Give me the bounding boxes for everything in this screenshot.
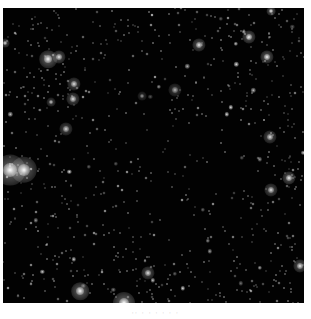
star (105, 39, 107, 41)
star (289, 237, 291, 239)
star (245, 269, 247, 271)
star (81, 117, 83, 119)
star (250, 202, 252, 204)
star (207, 88, 209, 90)
star (207, 299, 209, 301)
star (34, 16, 36, 18)
star (137, 158, 139, 160)
star-halo (11, 157, 37, 183)
star (287, 119, 289, 121)
star (219, 295, 221, 297)
star (170, 289, 172, 291)
star (189, 39, 191, 41)
star (256, 286, 258, 288)
star (26, 54, 28, 56)
star (300, 179, 302, 181)
star (55, 73, 57, 75)
star (152, 298, 154, 300)
star (276, 65, 278, 67)
star (76, 270, 78, 272)
star (178, 110, 180, 112)
star (268, 32, 270, 34)
star (301, 151, 304, 155)
star (271, 13, 273, 15)
star (228, 35, 230, 37)
star (104, 54, 106, 56)
star (241, 30, 245, 34)
star (132, 236, 134, 238)
star (291, 42, 293, 44)
star (267, 103, 269, 105)
star (196, 11, 199, 14)
star (230, 270, 232, 272)
star (189, 302, 191, 303)
star (38, 108, 41, 111)
star (150, 220, 153, 223)
star (92, 21, 94, 23)
star (101, 181, 104, 184)
star (121, 188, 124, 191)
star (247, 195, 249, 197)
star (224, 151, 226, 153)
star (113, 293, 115, 295)
star (287, 300, 289, 302)
star (66, 203, 68, 205)
star (179, 89, 181, 91)
star (301, 175, 303, 177)
star (95, 232, 98, 235)
star (75, 50, 77, 52)
star (33, 76, 35, 78)
star (54, 186, 56, 188)
star (108, 115, 110, 117)
star (203, 76, 205, 78)
star (201, 44, 203, 46)
star (36, 134, 38, 136)
star (7, 36, 9, 38)
star (299, 204, 301, 206)
star (297, 302, 299, 303)
star (205, 238, 209, 242)
star (89, 292, 91, 294)
star (291, 249, 293, 251)
star (128, 227, 130, 229)
star (75, 8, 77, 10)
star (76, 45, 78, 47)
star (152, 42, 154, 44)
star (191, 21, 193, 23)
star (175, 118, 177, 120)
star (174, 295, 176, 297)
star (27, 91, 29, 93)
star (146, 256, 148, 258)
star (26, 177, 28, 179)
star (127, 25, 129, 27)
star (46, 244, 48, 246)
star (11, 163, 13, 165)
star (18, 52, 20, 54)
star (139, 248, 141, 250)
star (209, 271, 211, 273)
star (293, 123, 295, 125)
star (150, 172, 152, 174)
star (181, 254, 183, 256)
star (291, 174, 293, 176)
star (62, 95, 64, 97)
star (174, 173, 176, 175)
star (227, 85, 230, 88)
star (82, 35, 85, 38)
star (96, 127, 99, 130)
star (294, 91, 297, 94)
star (132, 241, 134, 243)
star (61, 195, 63, 197)
star (201, 113, 203, 115)
star (293, 260, 295, 262)
star (69, 89, 71, 91)
star (132, 269, 134, 271)
star (95, 186, 97, 188)
star (189, 154, 191, 156)
star (56, 268, 58, 270)
star (132, 24, 134, 26)
star (149, 233, 151, 235)
star (290, 291, 292, 293)
star (168, 239, 170, 241)
star (68, 58, 70, 60)
